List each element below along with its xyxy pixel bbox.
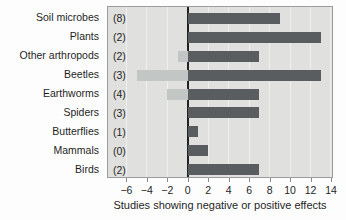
x-tick xyxy=(249,178,250,182)
category-label: Plants xyxy=(0,27,103,46)
negative-effect-studies-bar xyxy=(137,70,188,81)
positive-effect-studies-bar xyxy=(188,32,321,43)
x-tick xyxy=(311,178,312,182)
x-tick xyxy=(290,178,291,182)
category-label: Beetles xyxy=(0,65,103,84)
positive-effect-studies-bar xyxy=(188,107,260,118)
category-label: Mammals xyxy=(0,140,103,159)
study-count-label: (2) xyxy=(113,163,126,177)
category-label: Butterflies xyxy=(0,121,103,140)
x-tick-label: 14 xyxy=(318,184,344,196)
x-axis-title: Studies showing negative or positive eff… xyxy=(107,199,333,211)
x-tick xyxy=(208,178,209,182)
positive-effect-studies-bar xyxy=(188,51,260,62)
category-label: Earthworms xyxy=(0,84,103,103)
study-count-label: (2) xyxy=(113,30,126,44)
study-count-label: (1) xyxy=(113,125,126,139)
study-count-label: (8) xyxy=(113,11,126,25)
positive-effect-studies-bar xyxy=(188,13,280,24)
study-count-label: (3) xyxy=(113,106,126,120)
x-tick xyxy=(229,178,230,182)
gridline xyxy=(146,7,147,177)
study-count-label: (3) xyxy=(113,68,126,82)
category-label: Birds xyxy=(0,159,103,178)
positive-effect-studies-bar xyxy=(188,126,198,137)
gridline xyxy=(330,7,331,177)
x-tick xyxy=(147,178,148,182)
x-tick xyxy=(167,178,168,182)
positive-effect-studies-bar xyxy=(188,145,208,156)
plot-area: (8)(2)(2)(3)(4)(3)(1)(0)(2) xyxy=(107,6,333,178)
negative-effect-studies-bar xyxy=(178,51,188,62)
gridline xyxy=(126,7,127,177)
category-label: Spiders xyxy=(0,102,103,121)
category-label: Soil microbes xyxy=(0,8,103,27)
x-tick xyxy=(331,178,332,182)
positive-effect-studies-bar xyxy=(188,164,260,175)
positive-effect-studies-bar xyxy=(188,70,321,81)
negative-effect-studies-bar xyxy=(167,89,187,100)
category-axis-labels: Soil microbesPlantsOther arthropodsBeetl… xyxy=(0,8,103,178)
study-count-label: (2) xyxy=(113,49,126,63)
bar-chart-figure: Soil microbesPlantsOther arthropodsBeetl… xyxy=(0,0,346,220)
x-tick xyxy=(126,178,127,182)
x-tick xyxy=(270,178,271,182)
category-label: Other arthropods xyxy=(0,46,103,65)
x-tick xyxy=(188,178,189,182)
study-count-label: (4) xyxy=(113,87,126,101)
positive-effect-studies-bar xyxy=(188,89,260,100)
study-count-label: (0) xyxy=(113,144,126,158)
